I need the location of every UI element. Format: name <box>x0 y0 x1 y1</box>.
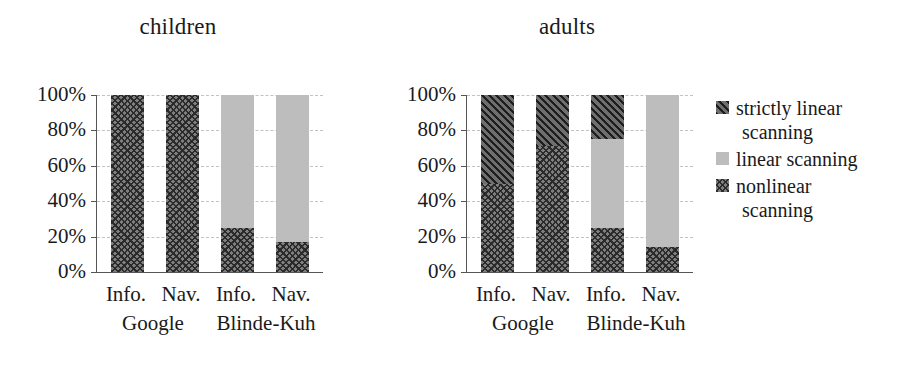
xtick-label-blindekuh-nav: Nav. <box>272 282 311 307</box>
segment-nonlinear <box>221 228 254 272</box>
legend-label-line2: scanning <box>742 198 813 222</box>
legend-item-linear-scanning: linear scanning <box>716 147 913 171</box>
segment-nonlinear <box>591 228 624 272</box>
ytick-label-20: 20% <box>48 224 87 249</box>
xtick-label-adults-google-nav: Nav. <box>532 282 571 307</box>
segment-nonlinear <box>536 146 569 272</box>
segment-strictly-linear <box>536 95 569 146</box>
legend-label-nonlinear: nonlinear scanning <box>736 174 813 222</box>
xtick-label-google-nav: Nav. <box>162 282 201 307</box>
panel-children: children 100% 80% 60% 40% 20% 0% <box>0 0 400 372</box>
ytick-0 <box>461 272 467 273</box>
ytick-label-60: 60% <box>418 153 457 178</box>
panel-title-children: children <box>0 14 378 40</box>
plot-area-children: 100% 80% 60% 40% 20% 0% <box>96 95 323 273</box>
ytick-60 <box>461 166 467 167</box>
ytick-0 <box>91 272 97 273</box>
ytick-80 <box>461 130 467 131</box>
legend-label-linear: linear scanning <box>736 147 858 171</box>
segment-linear <box>646 95 679 247</box>
ytick-label-40: 40% <box>418 188 457 213</box>
xtick-label-blindekuh-info: Info. <box>216 282 256 307</box>
legend-swatch-nonlinear-icon <box>716 179 729 192</box>
segment-nonlinear <box>111 95 144 272</box>
group-label-adults-google: Google <box>492 311 554 336</box>
ytick-label-0: 0% <box>58 259 86 284</box>
segment-nonlinear <box>166 95 199 272</box>
ytick-label-80: 80% <box>418 117 457 142</box>
plot-area-adults: 100% 80% 60% 40% 20% 0% <box>466 95 693 273</box>
ytick-label-100: 100% <box>407 82 456 107</box>
group-label-google: Google <box>122 311 184 336</box>
ytick-60 <box>91 166 97 167</box>
segment-linear <box>221 95 254 228</box>
ytick-20 <box>461 237 467 238</box>
xtick-label-adults-google-info: Info. <box>476 282 516 307</box>
xtick-label-adults-blindekuh-info: Info. <box>586 282 626 307</box>
ytick-label-100: 100% <box>37 82 86 107</box>
segment-nonlinear <box>646 247 679 272</box>
segment-strictly-linear <box>481 95 514 184</box>
panel-title-adults: adults <box>392 14 742 40</box>
legend-label-line1: linear scanning <box>736 148 858 170</box>
segment-nonlinear <box>481 184 514 273</box>
ytick-label-80: 80% <box>48 117 87 142</box>
ytick-40 <box>461 201 467 202</box>
segment-strictly-linear <box>591 95 624 139</box>
legend-item-nonlinear-scanning: nonlinear scanning <box>716 174 913 222</box>
ytick-label-40: 40% <box>48 188 87 213</box>
legend-swatch-linear-icon <box>716 152 729 165</box>
legend-label-strictly-linear: strictly linear scanning <box>736 96 842 144</box>
figure-stacked-bar-charts: children 100% 80% 60% 40% 20% 0% <box>0 0 913 372</box>
segment-nonlinear <box>276 242 309 272</box>
ytick-100 <box>461 95 467 96</box>
ytick-label-0: 0% <box>428 259 456 284</box>
segment-linear <box>591 139 624 228</box>
ytick-label-20: 20% <box>418 224 457 249</box>
legend-label-line1: strictly linear <box>736 97 842 119</box>
ytick-80 <box>91 130 97 131</box>
ytick-40 <box>91 201 97 202</box>
xtick-label-google-info: Info. <box>106 282 146 307</box>
legend-label-line1: nonlinear <box>736 175 812 197</box>
ytick-label-60: 60% <box>48 153 87 178</box>
xtick-label-adults-blindekuh-nav: Nav. <box>642 282 681 307</box>
ytick-20 <box>91 237 97 238</box>
ytick-100 <box>91 95 97 96</box>
group-label-blindekuh: Blinde-Kuh <box>216 311 315 336</box>
legend-swatch-strictly-linear-icon <box>716 101 729 114</box>
segment-linear <box>276 95 309 242</box>
legend-label-line2: scanning <box>742 120 842 144</box>
legend-item-strictly-linear-scanning: strictly linear scanning <box>716 96 913 144</box>
legend: strictly linear scanning linear scanning… <box>716 96 913 225</box>
group-label-adults-blindekuh: Blinde-Kuh <box>586 311 685 336</box>
